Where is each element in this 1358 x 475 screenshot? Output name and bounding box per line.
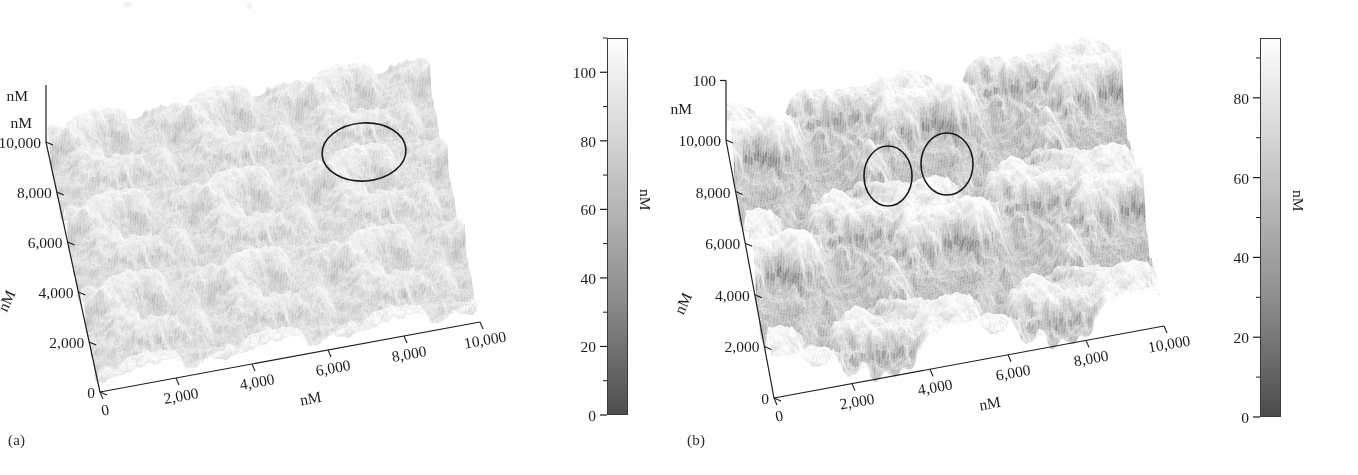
colorbar-unit-b: nM (1289, 190, 1307, 212)
colorbar-tick-label-b-2: 40 (1234, 249, 1250, 266)
colorbar-tick-label-a-2: 40 (581, 270, 597, 287)
panel-label-b: (b) (687, 432, 705, 449)
colorbar-unit-a: nM (636, 189, 654, 211)
colorbar-tick-label-a-4: 80 (581, 133, 597, 150)
colorbar-tick-label-a-0: 0 (588, 407, 596, 424)
colorbar-tick-label-b-1: 20 (1234, 329, 1250, 346)
colorbar-tick-label-a-3: 60 (581, 201, 597, 218)
colorbar-tick-label-b-0: 0 (1241, 409, 1249, 426)
colorbar-tick-label-b-4: 80 (1234, 90, 1250, 107)
colorbar-tick-label-a-1: 20 (581, 338, 597, 355)
figure-root: nM02,0004,0006,0008,00010,000nM02,0004,0… (0, 0, 1358, 475)
colorbar-tick-label-a-5: 100 (573, 64, 597, 81)
panel-b: 100nM02,0004,0006,0008,00010,000nM02,000… (679, 0, 1358, 475)
colorbar-a: 020406080100 nM (0, 0, 679, 475)
panel-label-a: (a) (8, 432, 25, 449)
colorbar-ticks-b: 020406080 (679, 0, 1358, 475)
colorbar-b: 020406080 nM (679, 0, 1358, 475)
colorbar-tick-label-b-3: 60 (1234, 170, 1250, 187)
colorbar-ticks-a: 020406080100 (0, 0, 679, 475)
panel-a: nM02,0004,0006,0008,00010,000nM02,0004,0… (0, 0, 679, 475)
